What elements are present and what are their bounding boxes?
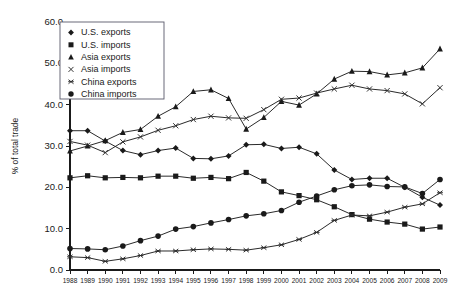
chart-series	[67, 128, 443, 208]
data-point-marker	[226, 153, 232, 159]
data-point-marker	[120, 257, 126, 261]
x-axis-tick-label: 2002	[309, 277, 324, 284]
x-axis-tick-label: 1989	[80, 277, 95, 284]
data-point-marker	[226, 217, 232, 223]
data-point-marker	[85, 128, 91, 134]
data-point-marker	[173, 174, 178, 179]
x-axis-tick-label: 1992	[133, 277, 148, 284]
data-point-marker	[120, 148, 126, 154]
data-point-marker	[155, 233, 161, 239]
data-point-marker	[226, 247, 232, 251]
data-point-marker	[190, 248, 196, 252]
x-axis-tick-label: 1993	[151, 277, 166, 284]
data-point-marker	[120, 139, 125, 144]
data-point-marker	[349, 176, 355, 182]
data-point-marker	[85, 256, 91, 260]
data-point-marker	[138, 175, 143, 180]
legend-item-label: Asia imports	[81, 64, 131, 74]
x-axis-tick-label: 1997	[221, 277, 236, 284]
data-point-marker	[208, 156, 214, 162]
x-axis-tick-label: 1991	[116, 277, 131, 284]
data-point-marker	[331, 187, 337, 193]
data-point-marker	[85, 246, 91, 252]
x-axis-tick-label: 2005	[362, 277, 377, 284]
data-point-marker	[173, 145, 179, 151]
data-point-marker	[67, 128, 73, 134]
data-point-marker	[279, 243, 285, 247]
series-line	[70, 179, 440, 249]
data-point-marker	[402, 184, 408, 190]
data-point-marker	[69, 42, 74, 47]
data-point-marker	[296, 193, 301, 198]
data-point-marker	[402, 222, 407, 227]
legend-item-label: U.S. exports	[81, 27, 131, 37]
x-axis-tick-label: 1988	[63, 277, 78, 284]
line-chart: 0.010.020.030.040.050.060.0 198819891990…	[0, 0, 463, 306]
data-point-marker	[367, 175, 373, 181]
data-point-marker	[296, 199, 302, 205]
data-point-marker	[190, 155, 196, 161]
data-point-marker	[402, 205, 408, 209]
data-point-marker	[437, 224, 442, 229]
data-point-marker	[102, 259, 108, 263]
data-point-marker	[437, 46, 443, 52]
x-axis-tick-label: 1995	[186, 277, 201, 284]
data-point-marker	[137, 152, 143, 158]
data-point-marker	[226, 95, 232, 101]
data-point-marker	[279, 189, 284, 194]
data-point-marker	[279, 208, 285, 214]
data-point-marker	[437, 85, 442, 90]
data-point-marker	[208, 220, 214, 226]
x-axis-tick-label: 2003	[327, 277, 342, 284]
data-point-marker	[208, 86, 214, 92]
data-point-marker	[314, 230, 320, 234]
chart-container: 0.010.020.030.040.050.060.0 198819891990…	[0, 0, 463, 306]
data-point-marker	[332, 204, 337, 209]
data-point-marker	[278, 145, 284, 151]
x-axis-tick-label: 1996	[204, 277, 219, 284]
data-point-marker	[173, 249, 179, 253]
chart-series	[67, 177, 443, 253]
x-axis-tick-label: 2004	[345, 277, 360, 284]
y-axis-tick-label: 30.0	[45, 140, 64, 151]
data-point-marker	[191, 224, 197, 230]
data-point-marker	[138, 253, 144, 257]
data-point-marker	[67, 175, 72, 180]
data-point-marker	[191, 176, 196, 181]
data-point-marker	[67, 246, 73, 252]
data-point-marker	[155, 174, 160, 179]
data-point-marker	[120, 175, 125, 180]
x-axis-tick-label: 2000	[274, 277, 289, 284]
data-point-marker	[384, 184, 390, 190]
y-axis-tick-label: 0.0	[50, 264, 63, 275]
y-axis-title: % of total trade	[10, 117, 20, 174]
legend-item-label: Asia exports	[81, 52, 131, 62]
data-point-marker	[349, 183, 355, 189]
series-line	[70, 172, 440, 229]
y-axis-tick-label: 20.0	[45, 181, 64, 192]
data-point-marker	[437, 202, 443, 208]
data-point-marker	[244, 170, 249, 175]
data-point-marker	[384, 210, 390, 214]
legend-item-label: China imports	[81, 89, 137, 99]
data-point-marker	[120, 243, 126, 249]
data-point-marker	[103, 150, 108, 155]
legend-item-label: U.S. imports	[81, 40, 131, 50]
data-point-marker	[208, 175, 213, 180]
x-axis-tick-label: 1990	[98, 277, 113, 284]
x-axis-tick-label: 2001	[292, 277, 307, 284]
data-point-marker	[261, 179, 266, 184]
data-point-marker	[367, 182, 373, 188]
x-axis: 1988198919901991199219931994199519961997…	[63, 270, 448, 284]
data-point-marker	[261, 211, 267, 217]
data-point-marker	[331, 76, 337, 82]
x-axis-tick-label: 1998	[239, 277, 254, 284]
x-axis-tick-label: 2009	[433, 277, 448, 284]
data-point-marker	[296, 237, 302, 241]
data-point-marker	[261, 141, 267, 147]
data-point-marker	[385, 219, 390, 224]
data-point-marker	[155, 249, 161, 253]
data-point-marker	[138, 134, 143, 139]
data-point-marker	[243, 126, 249, 132]
data-point-marker	[173, 226, 179, 232]
